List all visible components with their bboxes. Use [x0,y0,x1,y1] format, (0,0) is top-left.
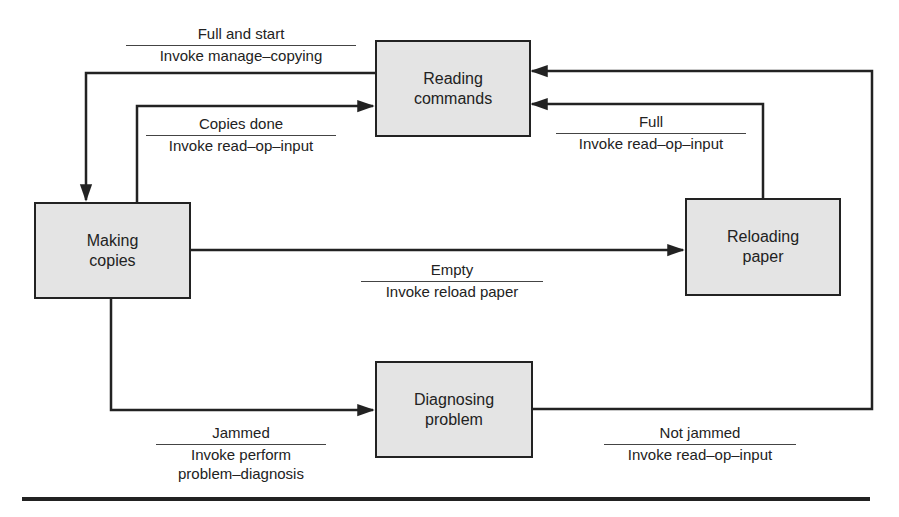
event-text: Empty [361,261,543,282]
action-text: Invoke read–op–input [556,134,746,153]
action-text: Invoke reload paper [361,282,543,301]
arrow-making-to-diagnosing [111,298,373,410]
transition-label-empty: Empty Invoke reload paper [361,261,543,301]
state-label-line2: paper [727,247,799,267]
action-text: Invoke perform [156,445,326,464]
bottom-rule-divider [22,497,870,501]
state-label-line1: Making [87,231,139,251]
transition-label-jammed: Jammed Invoke perform problem–diagnosis [156,424,326,483]
state-label-line2: copies [87,251,139,271]
event-text: Not jammed [604,424,796,445]
transition-label-not-jammed: Not jammed Invoke read–op–input [604,424,796,464]
state-reloading-paper: Reloadingpaper [685,198,841,296]
transition-label-full-and-start: Full and start Invoke manage–copying [126,25,356,65]
action-text: Invoke read–op–input [604,445,796,464]
event-text: Full [556,113,746,134]
event-text: Full and start [126,25,356,46]
transition-label-copies-done: Copies done Invoke read–op–input [146,115,336,155]
event-text: Jammed [156,424,326,445]
action-text: Invoke read–op–input [146,136,336,155]
state-label-line1: Reading [414,69,492,89]
state-label-line2: commands [414,89,492,109]
event-text: Copies done [146,115,336,136]
state-reading-commands: Readingcommands [375,40,531,137]
state-label-line2: problem [414,410,494,430]
state-label-line1: Diagnosing [414,390,494,410]
action-text-line2: problem–diagnosis [156,464,326,483]
state-diagnosing-problem: Diagnosingproblem [375,361,533,458]
state-label-line1: Reloading [727,227,799,247]
transition-label-full: Full Invoke read–op–input [556,113,746,153]
action-text: Invoke manage–copying [126,46,356,65]
state-making-copies: Makingcopies [34,202,191,299]
